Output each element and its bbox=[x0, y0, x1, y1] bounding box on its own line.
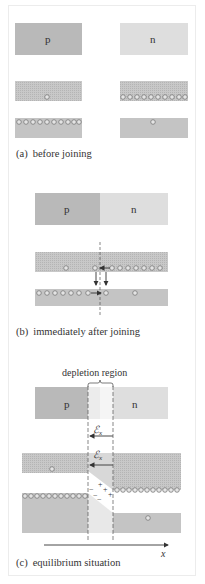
depletion-core bbox=[100, 387, 113, 419]
p-label: p bbox=[64, 203, 70, 215]
n-conduction-band bbox=[113, 453, 181, 490]
svg-text:−: − bbox=[97, 495, 102, 504]
n-block bbox=[113, 387, 168, 419]
caption-b: (b)immediately after joining bbox=[16, 326, 141, 338]
caption-c: (c)equilibrium situation bbox=[16, 557, 121, 569]
p-label: p bbox=[45, 33, 51, 45]
panel-a: p n (a)before joining bbox=[15, 23, 188, 160]
p-valence-band bbox=[22, 493, 88, 533]
panel-c: depletion region p n ℰx ℰx −−− bbox=[16, 367, 181, 569]
svg-text:+: + bbox=[108, 490, 113, 499]
p-label: p bbox=[64, 398, 70, 410]
n-label: n bbox=[131, 203, 137, 215]
p-block bbox=[35, 387, 88, 419]
n-label: n bbox=[132, 398, 138, 410]
n-label: n bbox=[150, 33, 156, 45]
caption-a: (a)before joining bbox=[16, 148, 93, 160]
panel-b: p n (b)immediately after joining bbox=[16, 193, 168, 338]
field-label-top: ℰx bbox=[93, 424, 103, 437]
pn-junction-diagram: p n (a)before joining p n bbox=[0, 0, 205, 584]
depletion-region-label: depletion region bbox=[62, 367, 127, 378]
x-axis-label: x bbox=[160, 548, 166, 559]
conduction-band bbox=[35, 252, 168, 272]
p-conduction-band bbox=[22, 453, 88, 473]
